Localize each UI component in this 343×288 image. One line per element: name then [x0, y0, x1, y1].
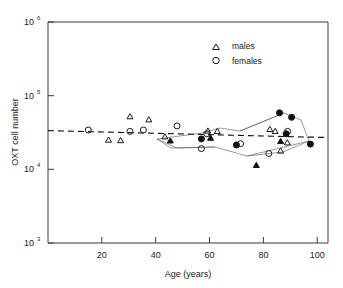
data-point-female-open	[198, 146, 204, 152]
data-point-female-filled	[233, 142, 239, 148]
chart-canvas: 10 3 10 4 10 5 10 6 20 40 60 80 100 Age …	[0, 0, 343, 288]
data-point-male-open	[146, 117, 152, 122]
data-point-female-open	[140, 127, 146, 133]
legend-marker-triangle-icon	[213, 44, 220, 50]
x-tick-label-20: 20	[97, 250, 107, 260]
x-tick-label-100: 100	[310, 250, 325, 260]
data-point-female-open	[174, 123, 180, 129]
oxt-cell-number-scatter-figure: 10 3 10 4 10 5 10 6 20 40 60 80 100 Age …	[0, 0, 343, 288]
data-point-male-open	[106, 137, 112, 142]
x-axis-title: Age (years)	[165, 269, 212, 279]
data-point-markers	[85, 110, 313, 168]
y-tick-label-1000000: 10	[24, 17, 34, 27]
data-point-female-filled	[277, 110, 283, 116]
legend-label-females: females	[232, 56, 262, 66]
y-axis-tick-labels: 10 3 10 4 10 5 10 6	[24, 15, 41, 248]
y-tick-label-10000: 10	[24, 164, 34, 174]
data-point-female-open	[127, 128, 133, 134]
data-point-male-open	[267, 126, 273, 131]
y-axis-ticks	[48, 22, 54, 243]
data-point-female-filled	[307, 141, 313, 147]
x-tick-label-40: 40	[151, 250, 161, 260]
y-tick-label-100000: 10	[24, 91, 34, 101]
y-tick-exponent-10000: 4	[37, 162, 41, 168]
data-point-female-filled	[198, 136, 204, 142]
data-point-male-filled	[253, 162, 259, 167]
y-tick-exponent-1000: 3	[37, 236, 41, 242]
data-point-male-open	[127, 114, 133, 119]
data-point-female-filled	[283, 131, 289, 137]
legend-marker-circle-icon	[213, 57, 219, 63]
y-tick-exponent-100000: 5	[37, 89, 41, 95]
data-point-male-open	[118, 138, 124, 143]
x-tick-label-60: 60	[204, 250, 214, 260]
legend-label-males: males	[232, 41, 255, 51]
y-tick-label-1000: 10	[24, 238, 34, 248]
data-point-male-open	[272, 128, 278, 133]
data-point-female-filled	[289, 114, 295, 120]
y-axis-title: OXT cell number	[10, 98, 20, 165]
x-tick-label-80: 80	[258, 250, 268, 260]
y-tick-exponent-1000000: 6	[37, 15, 41, 21]
legend: males females	[213, 41, 262, 66]
x-axis-ticks	[102, 237, 317, 243]
data-point-male-filled	[278, 138, 284, 143]
x-axis-tick-labels: 20 40 60 80 100	[97, 250, 325, 260]
data-point-male-open	[284, 140, 290, 145]
